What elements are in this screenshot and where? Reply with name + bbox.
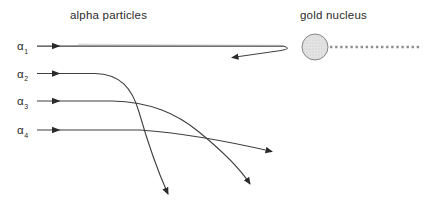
alpha2-launch-arrow-icon (52, 70, 61, 76)
particle-label-alpha3: α3 (17, 94, 28, 108)
alpha1-ghost-line (78, 44, 280, 45)
alpha4-symbol: α (17, 124, 24, 136)
alpha1-launch-arrow-icon (52, 43, 61, 49)
trajectory-graphic (0, 0, 435, 208)
alpha-particles-title: alpha particles (70, 9, 147, 21)
gold-nucleus-circle (302, 34, 328, 60)
alpha3-launch-arrow-icon (52, 98, 61, 104)
rutherford-scattering-diagram: alpha particles gold nucleus α1 α2 α3 α4 (0, 0, 435, 208)
gold-nucleus-title: gold nucleus (300, 9, 367, 21)
alpha3-trajectory (37, 101, 250, 184)
particle-label-alpha2: α2 (17, 67, 28, 81)
alpha4-trajectory (37, 130, 272, 152)
alpha3-subscript: 3 (24, 103, 28, 110)
alpha1-subscript: 1 (24, 48, 28, 55)
alpha1-symbol: α (17, 40, 24, 52)
alpha2-symbol: α (17, 68, 24, 80)
particle-label-alpha1: α1 (17, 39, 28, 53)
alpha4-launch-arrow-icon (52, 127, 61, 133)
alpha1-return-trajectory (232, 46, 288, 58)
alpha3-symbol: α (17, 95, 24, 107)
alpha4-subscript: 4 (24, 132, 28, 139)
alpha2-subscript: 2 (24, 75, 28, 82)
particle-label-alpha4: α4 (17, 123, 28, 137)
alpha2-trajectory (37, 74, 168, 195)
